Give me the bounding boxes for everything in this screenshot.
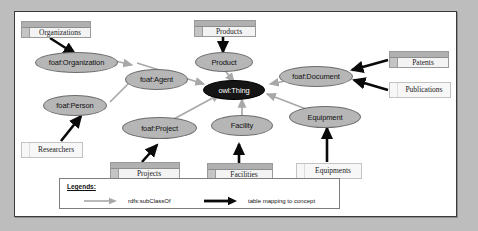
node-label: Equipment [308, 113, 343, 122]
table-body-row: Equipments [297, 164, 361, 178]
node-label: owl:Thing [218, 86, 249, 95]
table-left-column [390, 58, 398, 67]
table-label: Equipments [305, 167, 361, 175]
table-body-row: Researchers [22, 143, 82, 157]
node-product[interactable]: Product [195, 52, 253, 72]
table-left-column [22, 143, 30, 157]
node-owl-thing[interactable]: owl:Thing [203, 80, 265, 100]
diagram-frame: Organizations Products Patents Publicati… [14, 11, 457, 217]
table-left-column [111, 169, 119, 178]
legend-box: Legends: rdfs:subClassOf table mapping t… [59, 178, 340, 209]
node-facility[interactable]: Facility [211, 115, 273, 136]
node-label: foaf:Organization [49, 58, 104, 67]
node-foaf-person[interactable]: foaf:Person [43, 95, 107, 116]
table-body-row: Products [195, 27, 255, 36]
table-box-publications[interactable]: Publications [389, 82, 451, 98]
table-box-products[interactable]: Products [194, 20, 256, 37]
legend-label: table mapping to concept [248, 198, 315, 204]
table-box-researchers[interactable]: Researchers [21, 142, 83, 158]
node-foaf-document[interactable]: foaf:Document [279, 66, 353, 87]
diagram-canvas: Organizations Products Patents Publicati… [0, 0, 478, 231]
table-left-column [297, 164, 305, 178]
table-left-column [195, 27, 203, 36]
node-label: Product [211, 58, 236, 67]
table-body-row: Publications [390, 83, 450, 97]
table-label: Patents [398, 59, 448, 67]
table-box-organizations[interactable]: Organizations [21, 21, 91, 38]
node-foaf-agent[interactable]: foaf:Agent [125, 69, 188, 90]
gray-arrow-icon [84, 197, 118, 205]
legend-label: rdfs:subClassOf [128, 198, 171, 204]
table-body-row: Organizations [22, 28, 90, 37]
table-label: Projects [119, 170, 179, 178]
node-label: Facility [231, 121, 254, 130]
black-arrow-icon [204, 196, 238, 206]
legend-entry-subclassof: rdfs:subClassOf [84, 197, 171, 205]
node-label: foaf:Project [141, 124, 178, 133]
node-foaf-project[interactable]: foaf:Project [122, 117, 197, 139]
node-label: foaf:Agent [140, 75, 173, 84]
legend-entry-table-mapping: table mapping to concept [204, 196, 315, 206]
node-equipment[interactable]: Equipment [289, 106, 361, 128]
table-box-patents[interactable]: Patents [389, 51, 449, 68]
table-label: Publications [398, 86, 450, 94]
node-foaf-organization[interactable]: foaf:Organization [35, 52, 118, 73]
table-left-column [390, 83, 398, 97]
table-body-row: Patents [390, 58, 448, 67]
table-left-column [22, 28, 30, 37]
table-label: Organizations [30, 29, 90, 37]
table-label: Researchers [30, 146, 82, 154]
node-label: foaf:Person [56, 101, 93, 110]
legend-title: Legends: [67, 183, 96, 190]
table-label: Products [203, 28, 255, 36]
table-box-equipments[interactable]: Equipments [296, 163, 362, 179]
table-box-projects[interactable]: Projects [110, 162, 180, 179]
table-body-row: Projects [111, 169, 179, 178]
node-label: foaf:Document [292, 72, 339, 81]
